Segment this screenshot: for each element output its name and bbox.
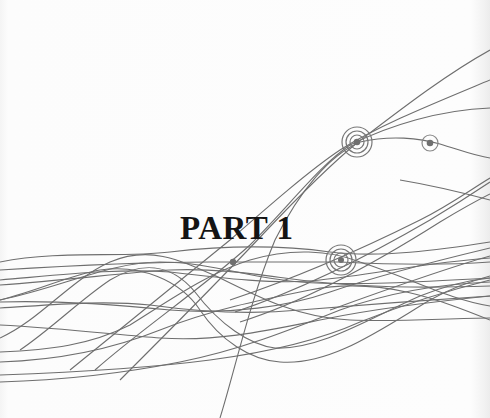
wave-line bbox=[120, 50, 490, 380]
wave-line bbox=[0, 255, 490, 338]
part-title: PART 1 bbox=[180, 210, 293, 247]
part-divider-page: PART 1 bbox=[0, 0, 490, 418]
wave-line bbox=[400, 180, 490, 200]
wave-line bbox=[360, 138, 490, 158]
target-marker-lower bbox=[326, 245, 356, 275]
target-marker-large bbox=[342, 127, 372, 157]
wave-lines-decoration bbox=[0, 0, 490, 418]
dot-marker bbox=[230, 259, 236, 265]
